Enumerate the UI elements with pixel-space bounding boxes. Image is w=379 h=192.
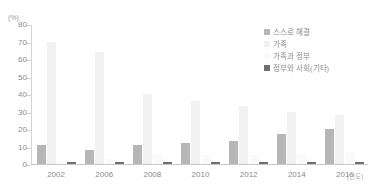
x-axis-tick-label: 2002	[32, 170, 80, 179]
bar-group	[176, 25, 224, 164]
bar[interactable]	[163, 162, 172, 164]
y-axis-tick-label: 60	[18, 55, 27, 65]
bar[interactable]	[211, 162, 220, 164]
bar[interactable]	[67, 162, 76, 164]
bar[interactable]	[307, 162, 316, 164]
bar[interactable]	[191, 101, 200, 164]
x-axis-tick-label: 2006	[80, 170, 128, 179]
bar[interactable]	[239, 106, 248, 164]
bar[interactable]	[287, 112, 296, 165]
x-axis-tick-label: 2008	[128, 170, 176, 179]
legend-label: 가족	[273, 40, 287, 49]
legend: 스스로 해결가족가족과 정부정부와 사회(기타)	[264, 27, 329, 73]
legend-item[interactable]: 가족	[264, 39, 329, 49]
x-axis-tick-label: 2012	[225, 170, 273, 179]
x-axis-line	[31, 164, 368, 165]
bar[interactable]	[115, 162, 124, 164]
bar[interactable]	[85, 150, 94, 164]
bar[interactable]	[335, 115, 344, 164]
x-axis-tick-label: 2014	[273, 170, 321, 179]
y-axis-tick-label: 0	[23, 160, 27, 170]
bar-group	[80, 25, 128, 164]
y-axis-tick-label: 30	[18, 108, 27, 118]
x-axis-tick-label: 2010	[176, 170, 224, 179]
legend-swatch-icon	[264, 29, 270, 35]
legend-swatch-icon	[264, 41, 270, 47]
bar[interactable]	[229, 141, 238, 164]
legend-label: 정부와 사회(기타)	[273, 64, 329, 73]
legend-label: 스스로 해결	[273, 28, 310, 37]
y-axis-tick-label: 50	[18, 73, 27, 83]
bar[interactable]	[297, 154, 306, 165]
legend-swatch-icon	[264, 53, 270, 59]
bar[interactable]	[57, 161, 66, 165]
bar[interactable]	[259, 162, 268, 164]
bar[interactable]	[355, 162, 364, 164]
bar[interactable]	[325, 129, 334, 164]
bar-group	[32, 25, 80, 164]
bar[interactable]	[47, 42, 56, 165]
bar[interactable]	[143, 94, 152, 164]
bar[interactable]	[37, 145, 46, 164]
y-axis-tick-label: 20	[18, 125, 27, 135]
bar-chart: (%) 80706050403020100 200220062008201020…	[0, 0, 379, 192]
bar[interactable]	[133, 145, 142, 164]
y-axis-tick-label: 70	[18, 38, 27, 48]
legend-label: 가족과 정부	[273, 52, 310, 61]
bar[interactable]	[201, 155, 210, 164]
legend-swatch-icon	[264, 65, 270, 71]
y-axis-tick-label: 10	[18, 143, 27, 153]
legend-item[interactable]: 정부와 사회(기타)	[264, 63, 329, 73]
legend-item[interactable]: 가족과 정부	[264, 51, 329, 61]
bar[interactable]	[105, 159, 114, 164]
bar[interactable]	[277, 134, 286, 164]
bar[interactable]	[345, 152, 354, 164]
y-axis-tick-label: 40	[18, 90, 27, 100]
bar[interactable]	[153, 154, 162, 165]
bar[interactable]	[249, 155, 258, 164]
bar[interactable]	[181, 143, 190, 164]
bar-group	[128, 25, 176, 164]
legend-item[interactable]: 스스로 해결	[264, 27, 329, 37]
x-axis-unit-label: (연도)	[347, 171, 363, 181]
x-axis-labels: 2002200620082010201220142016	[32, 170, 369, 179]
bar[interactable]	[95, 52, 104, 164]
y-axis-tick-label: 80	[18, 20, 27, 30]
